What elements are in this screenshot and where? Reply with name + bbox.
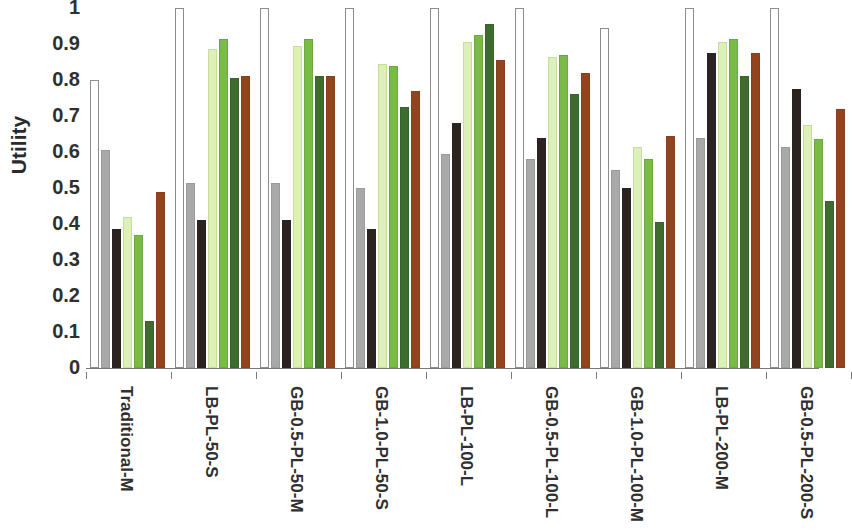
y-axis-tick-label: 0.6 (28, 141, 80, 161)
bar[interactable] (781, 147, 790, 368)
bar[interactable] (570, 94, 579, 368)
bar[interactable] (208, 49, 217, 368)
bar[interactable] (282, 220, 291, 368)
x-axis-tick-label: GB-0.5-PL-200-S (796, 386, 816, 530)
bar-group-bars (685, 8, 760, 368)
bar[interactable] (411, 91, 420, 368)
x-axis-tick-label: GB-0.5-PL-50-M (286, 386, 306, 530)
x-axis-tick-label: Traditional-M (116, 386, 136, 530)
bar[interactable] (707, 53, 716, 368)
y-axis-tick-label: 0.2 (28, 285, 80, 305)
bar-group-bars (260, 8, 335, 368)
bar[interactable] (792, 89, 801, 368)
x-axis-tick-mark (511, 372, 512, 379)
bar[interactable] (644, 159, 653, 368)
x-axis-tick-mark (426, 372, 427, 379)
bar[interactable] (803, 125, 812, 368)
bar[interactable] (304, 39, 313, 368)
bar[interactable] (156, 192, 165, 368)
bar[interactable] (485, 24, 494, 368)
x-axis-tick-label: LB-PL-200-M (711, 386, 731, 530)
bar-group-bars (90, 8, 165, 368)
bar[interactable] (729, 39, 738, 368)
bar[interactable] (825, 201, 834, 368)
x-axis-tick-mark (681, 372, 682, 379)
x-axis-tick-label: LB-PL-100-L (456, 386, 476, 530)
y-axis-tick-label: 0.8 (28, 69, 80, 89)
x-axis-tick-mark (86, 372, 87, 379)
bar[interactable] (219, 39, 228, 368)
bar[interactable] (315, 76, 324, 368)
bar[interactable] (260, 8, 269, 368)
bar[interactable] (230, 78, 239, 368)
bar[interactable] (633, 147, 642, 368)
bar[interactable] (496, 60, 505, 368)
bar[interactable] (611, 170, 620, 368)
bar[interactable] (175, 8, 184, 368)
bar-group-bars (345, 8, 420, 368)
bar-group-bars (600, 8, 675, 368)
x-axis-line (86, 368, 819, 369)
bar[interactable] (452, 123, 461, 368)
bar-group-bars (175, 8, 250, 368)
bar[interactable] (356, 188, 365, 368)
x-axis-tick-mark (341, 372, 342, 379)
x-axis-tick-label: GB-1.0-PL-100-M (626, 386, 646, 530)
y-axis-tick-label: 0.1 (28, 321, 80, 341)
bar[interactable] (345, 8, 354, 368)
bar[interactable] (101, 150, 110, 368)
bar[interactable] (112, 229, 121, 368)
y-axis-tick-label: 0.4 (28, 213, 80, 233)
bar[interactable] (526, 159, 535, 368)
bar[interactable] (696, 138, 705, 368)
bar[interactable] (430, 8, 439, 368)
y-axis-tick-label: 0.3 (28, 249, 80, 269)
bar[interactable] (389, 66, 398, 368)
bar[interactable] (474, 35, 483, 368)
plot-area (86, 8, 819, 368)
x-axis-tick-labels: Traditional-MLB-PL-50-SGB-0.5-PL-50-MGB-… (86, 372, 819, 530)
bar-group-bars (770, 8, 845, 368)
bar[interactable] (400, 107, 409, 368)
x-axis-tick-label: GB-0.5-PL-100-L (541, 386, 561, 530)
bar[interactable] (836, 109, 845, 368)
bar[interactable] (241, 76, 250, 368)
bar[interactable] (655, 222, 664, 368)
bar[interactable] (740, 76, 749, 368)
bar-group-bars (515, 8, 590, 368)
bar[interactable] (134, 235, 143, 368)
bar[interactable] (378, 64, 387, 368)
x-axis-tick-label: GB-1.0-PL-50-S (371, 386, 391, 530)
bar[interactable] (770, 8, 779, 368)
bar[interactable] (326, 76, 335, 368)
bar[interactable] (515, 8, 524, 368)
bar[interactable] (271, 183, 280, 368)
bar[interactable] (463, 42, 472, 368)
bar[interactable] (548, 57, 557, 368)
bar[interactable] (600, 28, 609, 368)
x-axis-tick-mark (256, 372, 257, 379)
bar[interactable] (559, 55, 568, 368)
bar[interactable] (537, 138, 546, 368)
bar[interactable] (685, 8, 694, 368)
y-axis-tick-label: 0 (28, 357, 80, 377)
bar[interactable] (367, 229, 376, 368)
bar[interactable] (90, 80, 99, 368)
bar[interactable] (622, 188, 631, 368)
bar[interactable] (666, 136, 675, 368)
bar[interactable] (441, 154, 450, 368)
x-axis-tick-label: LB-PL-50-S (201, 386, 221, 530)
y-axis-tick-label: 0.7 (28, 105, 80, 125)
y-axis-tick-label: 1 (28, 0, 80, 17)
bar[interactable] (581, 73, 590, 368)
bar[interactable] (197, 220, 206, 368)
bar[interactable] (751, 53, 760, 368)
bar[interactable] (814, 139, 823, 368)
bar[interactable] (293, 46, 302, 368)
bar[interactable] (123, 217, 132, 368)
bar[interactable] (145, 321, 154, 368)
bar[interactable] (186, 183, 195, 368)
x-axis-tick-mark (766, 372, 767, 379)
bar[interactable] (718, 42, 727, 368)
